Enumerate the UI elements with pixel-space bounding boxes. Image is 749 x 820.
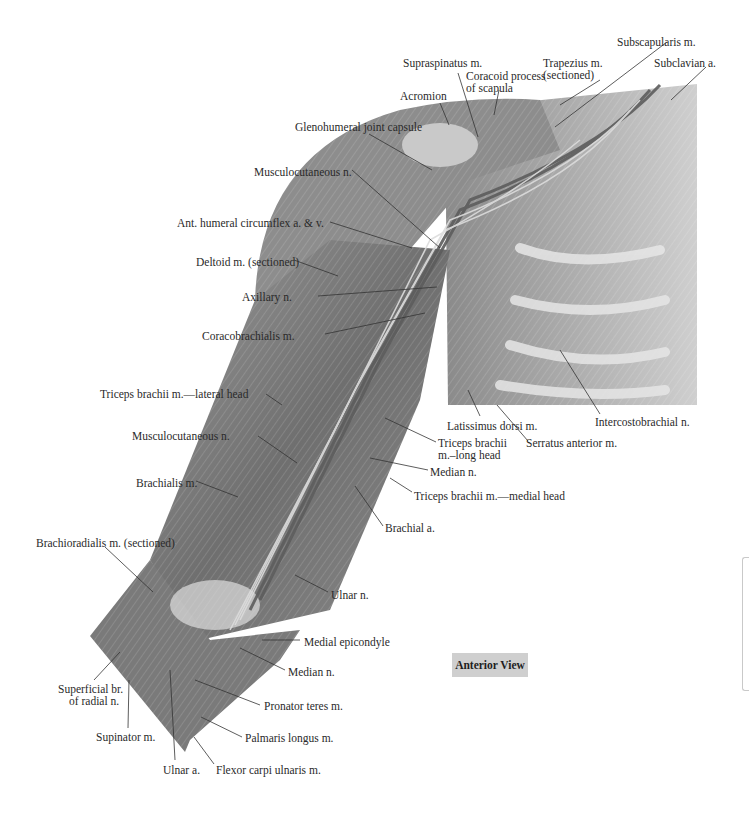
label-musculocutaneous-mid: Musculocutaneous n. — [132, 430, 230, 443]
label-trapezius2: (sectioned) — [543, 69, 594, 82]
label-intercostobrachial: Intercostobrachial n. — [595, 416, 690, 429]
label-deltoid: Deltoid m. (sectioned) — [196, 256, 299, 269]
view-label-badge: Anterior View — [452, 653, 528, 677]
label-triceps-long2: m.–long head — [438, 449, 501, 462]
edge-bracket — [742, 557, 749, 691]
leader-line — [128, 680, 129, 728]
label-serratus: Serratus anterior m. — [526, 437, 617, 450]
label-glenohumeral: Glenohumeral joint capsule — [295, 121, 422, 134]
label-subscapularis: Subscapularis m. — [617, 36, 696, 49]
label-coracoid2: of scapula — [466, 82, 513, 95]
label-musculocutaneous-top: Musculocutaneous n. — [254, 166, 352, 179]
label-flexor-carpi: Flexor carpi ulnaris m. — [216, 764, 321, 777]
label-pronator: Pronator teres m. — [264, 700, 343, 713]
label-acromion: Acromion — [400, 90, 447, 103]
label-supraspinatus: Supraspinatus m. — [403, 57, 482, 70]
label-ant-humeral: Ant. humeral circumflex a. & v. — [177, 217, 324, 230]
label-axillary: Axillary n. — [242, 291, 292, 304]
label-ulnar-a: Ulnar a. — [163, 764, 200, 777]
leader-line — [201, 717, 242, 737]
label-median-top: Median n. — [430, 466, 477, 479]
label-ulnar-n: Ulnar n. — [331, 589, 369, 602]
label-brachioradialis: Brachioradialis m. (sectioned) — [36, 537, 175, 550]
label-triceps-lateral: Triceps brachii m.—lateral head — [100, 388, 248, 401]
label-triceps-medial: Triceps brachii m.—medial head — [414, 490, 565, 503]
leader-line — [194, 737, 214, 764]
label-medial-epicondyle: Medial epicondyle — [304, 636, 390, 649]
label-brachial-a: Brachial a. — [385, 522, 435, 535]
label-subclavian: Subclavian a. — [654, 57, 716, 70]
label-palmaris: Palmaris longus m. — [245, 732, 334, 745]
label-supinator: Supinator m. — [96, 731, 155, 744]
label-latissimus: Latissimus dorsi m. — [447, 420, 537, 433]
label-coracobrachialis: Coracobrachialis m. — [202, 330, 295, 343]
label-superficial-br2: of radial n. — [69, 695, 119, 708]
label-brachialis: Brachialis m. — [136, 477, 197, 490]
leader-line — [390, 478, 412, 492]
label-median-bottom: Median n. — [288, 666, 335, 679]
